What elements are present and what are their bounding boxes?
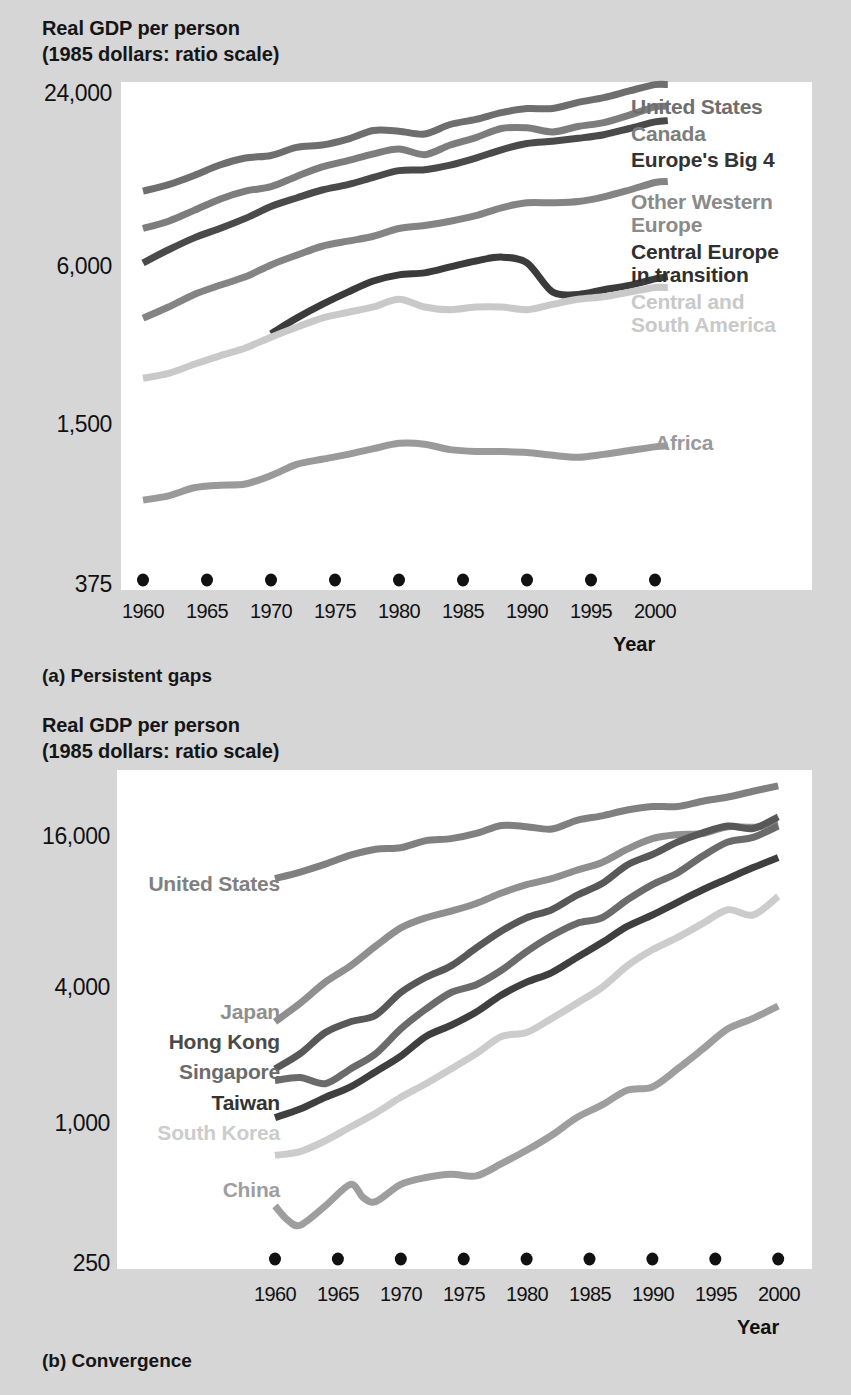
- panel-b-xtick-2000: 2000: [744, 1283, 814, 1306]
- series-line-taiwan: [275, 858, 778, 1118]
- x-tick-dot-1965: [332, 1253, 344, 1266]
- panel-b-xtick-1990: 1990: [618, 1283, 688, 1306]
- x-tick-dot-1960: [269, 1253, 281, 1266]
- series-line-south-korea: [275, 896, 778, 1155]
- x-tick-dot-1980: [521, 1253, 533, 1266]
- panel-b-xtick-1970: 1970: [366, 1283, 436, 1306]
- panel-b-ytick-250: 250: [18, 1250, 110, 1277]
- panel-b-label-taiwan: Taiwan: [35, 1091, 280, 1114]
- panel-b-label-china: China: [35, 1178, 280, 1201]
- panel-b-label-singapore: Singapore: [35, 1060, 280, 1083]
- gdp-comparison-figure: Real GDP per person (1985 dollars: ratio…: [0, 0, 851, 1395]
- x-tick-dot-2000: [772, 1253, 784, 1266]
- panel-b-label-hong-kong: Hong Kong: [35, 1030, 280, 1053]
- x-tick-dot-1975: [458, 1253, 470, 1266]
- panel-b-xtick-1975: 1975: [429, 1283, 499, 1306]
- panel-b-label-united-states: United States: [35, 872, 280, 895]
- panel-b-ytick-16000: 16,000: [18, 823, 110, 850]
- panel-b-xtick-1995: 1995: [681, 1283, 751, 1306]
- panel-b-label-south-korea: South Korea: [35, 1121, 280, 1144]
- x-tick-dot-1990: [646, 1253, 658, 1266]
- panel-b-caption: (b) Convergence: [42, 1350, 192, 1372]
- panel-b-xtick-1980: 1980: [492, 1283, 562, 1306]
- series-line-china: [275, 1006, 778, 1226]
- panel-b-xtick-1965: 1965: [303, 1283, 373, 1306]
- panel-b-xtick-1960: 1960: [240, 1283, 310, 1306]
- panel-b-ytick-4000: 4,000: [18, 974, 110, 1001]
- panel-b-label-japan: Japan: [35, 1000, 280, 1023]
- x-tick-dot-1995: [709, 1253, 721, 1266]
- panel-b-x-axis-name: Year: [737, 1316, 779, 1339]
- x-tick-dot-1970: [395, 1253, 407, 1266]
- x-tick-dot-1985: [584, 1253, 596, 1266]
- panel-b-xtick-1985: 1985: [555, 1283, 625, 1306]
